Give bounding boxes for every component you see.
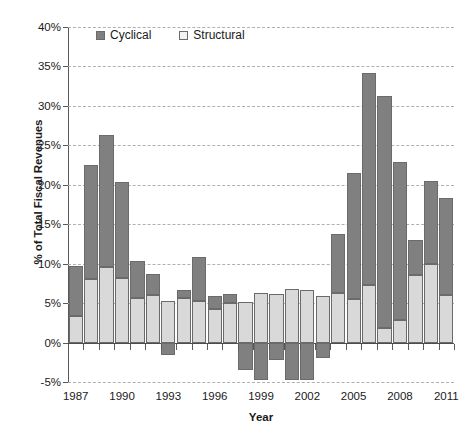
y-tick-mark xyxy=(63,303,68,304)
x-tick-mark xyxy=(315,344,316,350)
x-tick-mark xyxy=(269,344,270,350)
legend-label: Structural xyxy=(193,28,244,42)
x-tick-mark xyxy=(145,344,146,350)
x-tick-mark xyxy=(161,344,162,350)
y-tick-label: 10% xyxy=(15,258,61,270)
x-tick-mark xyxy=(253,344,254,350)
y-tick-mark xyxy=(63,145,68,146)
bar-segment-structural xyxy=(408,275,422,343)
x-tick-mark xyxy=(83,344,84,350)
bar-segment-structural xyxy=(269,294,283,343)
x-tick-mark xyxy=(238,344,239,350)
bar-segment-cyclical xyxy=(192,257,206,301)
x-tick-mark xyxy=(361,344,362,350)
x-tick-mark xyxy=(439,344,440,350)
x-tick-label: 1987 xyxy=(54,390,98,402)
legend-entry-cyclical: Cyclical xyxy=(96,28,151,42)
light-gray-swatch xyxy=(179,31,188,40)
legend-entry-structural: Structural xyxy=(179,28,244,42)
gridline--5% xyxy=(68,382,454,383)
bar-segment-structural xyxy=(115,278,129,343)
bar-segment-cyclical xyxy=(99,135,113,267)
bar-segment-structural xyxy=(146,295,160,342)
chart-legend: CyclicalStructural xyxy=(96,28,245,42)
legend-label: Cyclical xyxy=(110,28,151,42)
bar-segment-cyclical xyxy=(208,296,222,309)
y-tick-label: 0% xyxy=(15,337,61,349)
y-tick-mark xyxy=(63,264,68,265)
bar-segment-structural xyxy=(192,301,206,343)
bar-segment-structural xyxy=(285,289,299,343)
y-tick-mark xyxy=(63,66,68,67)
x-tick-mark xyxy=(454,344,455,350)
y-tick-label: 20% xyxy=(15,179,61,191)
bar-segment-cyclical xyxy=(377,96,391,328)
bar-segment-cyclical xyxy=(69,266,83,316)
bar-segment-cyclical xyxy=(439,198,453,295)
bar-segment-structural xyxy=(377,328,391,343)
x-tick-mark xyxy=(346,344,347,350)
bar-segment-structural xyxy=(300,290,314,343)
x-tick-mark xyxy=(284,344,285,350)
x-tick-mark xyxy=(130,344,131,350)
y-tick-label: -5% xyxy=(15,376,61,388)
bar-segment-structural xyxy=(316,296,330,343)
bar-segment-structural xyxy=(69,316,83,343)
x-tick-mark xyxy=(377,344,378,350)
bar-segment-structural xyxy=(99,267,113,343)
dark-gray-swatch xyxy=(96,31,105,40)
bar-segment-structural xyxy=(254,293,268,343)
plot-area xyxy=(68,27,454,382)
bar-segment-cyclical xyxy=(84,165,98,279)
x-tick-label: 2002 xyxy=(285,390,329,402)
y-tick-label: 25% xyxy=(15,139,61,151)
x-tick-mark xyxy=(330,344,331,350)
y-tick-label: 5% xyxy=(15,297,61,309)
bar-segment-structural xyxy=(424,264,438,342)
bar-segment-cyclical xyxy=(331,234,345,292)
y-tick-mark xyxy=(63,185,68,186)
bar-segment-cyclical xyxy=(424,181,438,265)
y-tick-mark xyxy=(63,382,68,383)
x-axis-title: Year xyxy=(68,411,454,423)
bar-segment-structural xyxy=(130,298,144,343)
bar-segment-structural xyxy=(177,298,191,342)
x-tick-mark xyxy=(392,344,393,350)
bar-segment-structural xyxy=(161,301,175,343)
bar-segment-structural xyxy=(223,303,237,342)
x-tick-label: 2008 xyxy=(378,390,422,402)
bar-segment-structural xyxy=(331,293,345,343)
x-axis-tick-labels: 198719901993199619992002200520082011 xyxy=(68,390,454,408)
y-tick-label: 30% xyxy=(15,100,61,112)
bar-segment-structural xyxy=(208,309,222,343)
bar-segment-cyclical xyxy=(146,274,160,295)
x-tick-label: 2005 xyxy=(332,390,376,402)
y-tick-label: 15% xyxy=(15,218,61,230)
bar-segment-structural xyxy=(362,285,376,343)
bar-segment-cyclical xyxy=(362,73,376,285)
x-tick-label: 1990 xyxy=(100,390,144,402)
bar-segment-cyclical xyxy=(177,290,191,298)
bar-segment-structural xyxy=(439,295,453,342)
x-tick-mark xyxy=(99,344,100,350)
bar-segment-structural xyxy=(238,302,252,342)
bar-segment-structural xyxy=(393,320,407,342)
bar-segment-structural xyxy=(84,279,98,343)
y-tick-label: 40% xyxy=(15,21,61,33)
x-tick-label: 1999 xyxy=(239,390,283,402)
x-tick-mark xyxy=(68,344,69,350)
bar-segment-structural xyxy=(347,299,361,342)
x-axis-ticks xyxy=(68,344,454,351)
stacked-bar-chart: % of Total Fiscal Revenues 40%35%30%25%2… xyxy=(0,0,465,441)
bar-segment-cyclical xyxy=(393,162,407,321)
y-tick-mark xyxy=(63,224,68,225)
x-tick-label: 1993 xyxy=(146,390,190,402)
x-tick-mark xyxy=(207,344,208,350)
y-tick-label: 35% xyxy=(15,60,61,72)
bar-segment-cyclical xyxy=(347,173,361,299)
bars-layer xyxy=(68,27,454,382)
bar-segment-cyclical xyxy=(115,182,129,278)
x-tick-mark xyxy=(423,344,424,350)
x-tick-label: 1996 xyxy=(193,390,237,402)
x-tick-mark xyxy=(408,344,409,350)
